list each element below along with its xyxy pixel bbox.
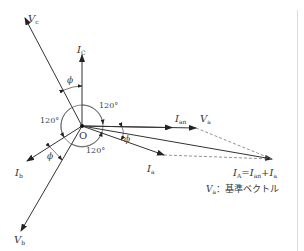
vector-Ian — [82, 126, 172, 128]
phasor-diagram — [0, 0, 304, 251]
label-120-left: 120° — [40, 117, 59, 125]
label-phi-a: ϕ — [124, 135, 130, 144]
phi-arc-c — [64, 86, 82, 90]
label-120-bottom: 120° — [86, 147, 105, 155]
label-Ian: Ian — [175, 114, 186, 125]
vector-Vc — [25, 18, 82, 126]
label-Vb: Vb — [14, 235, 25, 246]
label-Va: Va — [200, 114, 211, 125]
equation-IA: IA=Ian+Ia — [233, 168, 277, 179]
vector-IA — [82, 126, 272, 159]
label-120-top: 120° — [99, 102, 118, 110]
label-Ia: Ia — [147, 164, 155, 175]
dashed-line-top — [196, 128, 272, 159]
label-origin: O — [79, 131, 87, 141]
label-Ib: Ib — [15, 168, 23, 179]
label-Ic: IC — [77, 45, 86, 56]
label-Vc: Vc — [28, 14, 39, 25]
label-phi-b: ϕ — [47, 152, 53, 161]
vector-Ib — [27, 126, 82, 161]
page-edge-divider — [297, 10, 298, 251]
phi-arc-a — [121, 127, 123, 140]
label-phi-c: ϕ — [67, 76, 73, 85]
origin-point — [80, 124, 84, 128]
reference-vector-note: Va：基準ベクトル — [206, 185, 279, 195]
vector-Vb — [21, 126, 82, 231]
dashed-line-bottom — [164, 155, 272, 159]
